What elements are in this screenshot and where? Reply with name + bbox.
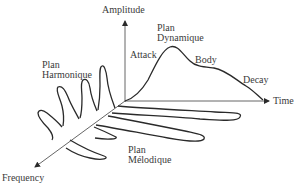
melodic-plane-loops bbox=[66, 106, 240, 159]
body-label: Body bbox=[195, 55, 217, 65]
amplitude-axis-label: Amplitude bbox=[102, 5, 145, 15]
frequency-axis bbox=[35, 101, 125, 167]
sound-3d-diagram: Amplitude Time Frequency Plan Harmonique… bbox=[0, 0, 301, 188]
harmonic-plane-label-line2: Harmonique bbox=[42, 70, 92, 80]
attack-label: Attack bbox=[130, 50, 157, 60]
frequency-axis-label: Frequency bbox=[2, 173, 44, 183]
time-axis-label: Time bbox=[273, 96, 294, 106]
melodic-plane-label-line2: Mélodique bbox=[128, 155, 171, 165]
dynamic-plane-label-line2: Dynamique bbox=[157, 33, 204, 43]
decay-label: Decay bbox=[243, 75, 269, 85]
